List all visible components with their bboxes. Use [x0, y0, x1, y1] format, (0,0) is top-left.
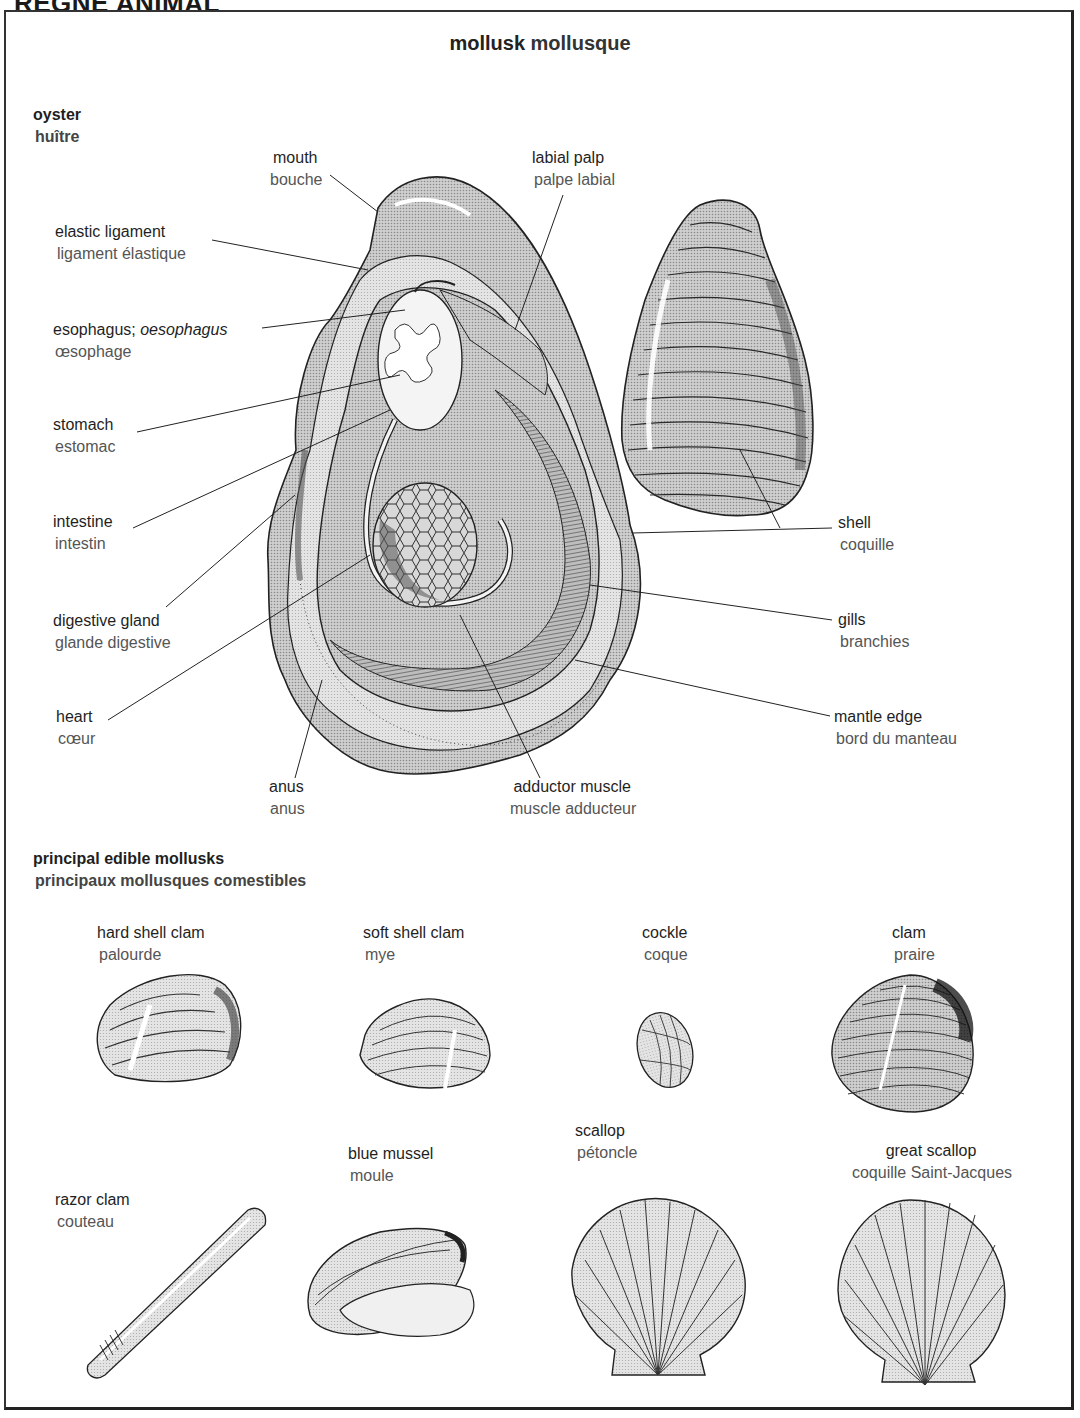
- great-scallop-illustration: [838, 1200, 1005, 1385]
- label-intestine: intestine intestin: [53, 511, 113, 555]
- label-shell: shell coquille: [838, 512, 894, 556]
- label-cockle: cockle coque: [642, 922, 688, 966]
- scallop-illustration: [572, 1198, 745, 1375]
- hard-shell-clam-illustration: [97, 975, 240, 1082]
- label-soft-shell-clam: soft shell clam mye: [363, 922, 464, 966]
- closed-oyster-illustration: [622, 200, 813, 515]
- blue-mussel-illustration: [308, 1228, 474, 1336]
- label-blue-mussel: blue mussel moule: [348, 1143, 433, 1187]
- oyster-illustration: [268, 177, 641, 774]
- label-scallop: scallop pétoncle: [575, 1120, 638, 1164]
- label-adductor-muscle: adductor muscle muscle adducteur: [508, 776, 636, 820]
- label-elastic-ligament: elastic ligament ligament élastique: [55, 221, 186, 265]
- clam-illustration: [832, 975, 973, 1112]
- label-mouth: mouth bouche: [268, 147, 323, 191]
- label-labial-palp: labial palp palpe labial: [532, 147, 615, 191]
- label-gills: gills branchies: [838, 609, 909, 653]
- label-stomach: stomach estomac: [53, 414, 115, 458]
- label-mantle-edge: mantle edge bord du manteau: [834, 706, 957, 750]
- label-esophagus: esophagus; oesophagus œsophage: [53, 319, 227, 363]
- plate-title: mollusk mollusque: [420, 30, 660, 56]
- label-anus: anus anus: [268, 776, 305, 820]
- razor-clam-illustration: [87, 1208, 265, 1377]
- label-clam: clam praire: [892, 922, 935, 966]
- title-fr: mollusque: [531, 32, 631, 54]
- label-hard-shell-clam: hard shell clam palourde: [97, 922, 205, 966]
- soft-shell-clam-illustration: [360, 999, 490, 1088]
- label-great-scallop: great scallop coquille Saint-Jacques: [836, 1140, 1026, 1184]
- cockle-illustration: [629, 1006, 701, 1093]
- edible-mollusks-heading: principal edible mollusks principaux mol…: [33, 848, 306, 892]
- label-razor-clam: razor clam couteau: [55, 1189, 130, 1233]
- label-heart: heart cœur: [56, 706, 95, 750]
- label-digestive-gland: digestive gland glande digestive: [53, 610, 171, 654]
- title-en: mollusk: [449, 32, 525, 54]
- oyster-label: oyster huître: [33, 104, 81, 148]
